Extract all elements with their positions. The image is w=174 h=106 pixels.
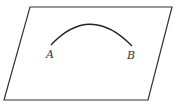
diagram: A B [0, 0, 174, 106]
plane-parallelogram [4, 7, 172, 100]
point-label-b: B [126, 49, 135, 62]
arc-ab [51, 24, 132, 46]
point-label-a: A [45, 48, 54, 61]
